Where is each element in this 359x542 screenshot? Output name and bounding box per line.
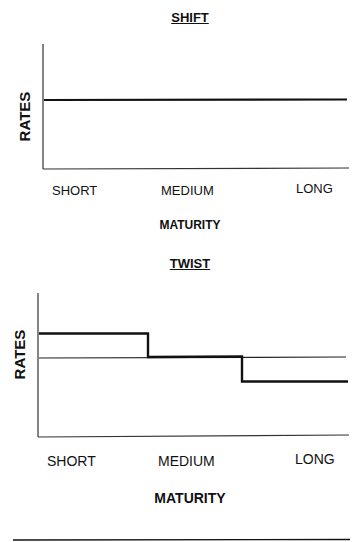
charts-canvas <box>0 0 359 542</box>
shift-curve-line <box>44 100 347 101</box>
shift-axes <box>43 44 349 169</box>
twist-axes <box>38 293 349 437</box>
bottom-divider <box>13 540 350 541</box>
